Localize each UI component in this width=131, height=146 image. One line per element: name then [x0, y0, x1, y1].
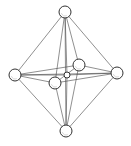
atom-right: [111, 67, 123, 79]
atom-bottom: [60, 125, 72, 137]
bond-bottom-center: [66, 75, 67, 131]
bond-bottom-front: [55, 83, 66, 131]
atom-center: [64, 72, 70, 78]
bond-bottom-right: [66, 73, 117, 131]
atom-front: [49, 77, 61, 89]
atom-left: [9, 69, 21, 81]
bonds-group: [15, 12, 117, 131]
atom-top: [59, 6, 71, 18]
octahedron-diagram: [0, 0, 131, 146]
atom-back: [73, 59, 85, 71]
